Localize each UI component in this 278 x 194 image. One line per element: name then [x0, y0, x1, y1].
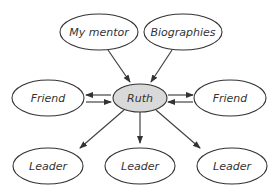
edge-ruth-leader1 [80, 110, 124, 148]
influence-diagram: My mentor Biographies Friend Ruth Friend… [0, 0, 278, 194]
label-friend-right: Friend [213, 92, 249, 105]
label-mentor: My mentor [69, 26, 130, 39]
label-friend-left: Friend [31, 92, 67, 105]
label-ruth: Ruth [127, 92, 153, 105]
label-leader-2: Leader [121, 160, 160, 173]
label-leader-3: Leader [213, 160, 252, 173]
edge-ruth-leader3 [156, 110, 200, 148]
label-leader-1: Leader [29, 160, 68, 173]
edge-mentor-ruth [108, 50, 130, 82]
edge-bio-ruth [151, 50, 172, 82]
label-biographies: Biographies [150, 26, 215, 39]
